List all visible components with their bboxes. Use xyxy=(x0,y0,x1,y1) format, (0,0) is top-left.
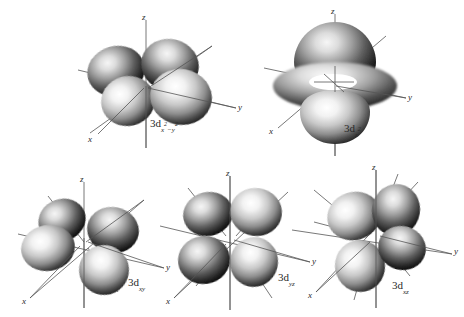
axis-label-x: x xyxy=(166,296,170,306)
orbital-label-sub-main: xz xyxy=(403,288,409,296)
orbital-label-sub-mid: −y xyxy=(167,126,175,134)
orbital-label-prefix: 3d xyxy=(278,271,289,283)
lobe-1 xyxy=(178,187,237,242)
lobe-4 xyxy=(225,232,284,292)
axis-label-x: x xyxy=(269,126,273,136)
orbital-label-sup-1: 2 xyxy=(164,121,167,127)
orbital-label-sub-main: xy xyxy=(139,285,145,293)
orbital-3d-xz-graphic xyxy=(292,168,464,317)
axis-label-y: y xyxy=(454,246,458,256)
orbital-label-prefix: 3d xyxy=(150,117,161,129)
orbital-label-prefix: 3d xyxy=(392,279,403,291)
axis-label-z: z xyxy=(226,168,230,178)
axis-label-x: x xyxy=(22,296,26,306)
orbital-label-sup-2: 2 xyxy=(175,121,178,127)
axis-label-x: x xyxy=(88,134,92,144)
axis-label-y: y xyxy=(238,102,242,112)
orbital-label-sup-1: 2 xyxy=(358,126,361,132)
lobe-2 xyxy=(227,185,285,240)
orbital-label-sub-main: z xyxy=(355,131,358,139)
orbital-label-3d-z2: 3dz2 xyxy=(344,122,361,134)
axis-label-z: z xyxy=(372,162,376,172)
orbital-label-prefix: 3d xyxy=(344,122,355,134)
axis-label-y: y xyxy=(408,92,412,102)
axis-label-z: z xyxy=(331,6,335,16)
orbital-label-prefix: 3d xyxy=(128,276,139,288)
lobe-3 xyxy=(175,233,233,288)
orbital-label-3d-x2-y2: 3dx2−y2 xyxy=(150,117,178,129)
orbital-3d-x2-y2: z y x xyxy=(60,8,260,158)
orbital-3d-xz: z y x xyxy=(292,168,464,317)
axis-label-z: z xyxy=(142,12,146,22)
orbital-label-3d-xz: 3dxz xyxy=(392,279,409,291)
axis-label-x: x xyxy=(308,290,312,300)
axis-lines xyxy=(160,176,310,310)
orbital-label-3d-xy: 3dxy xyxy=(128,276,145,288)
axis-label-z: z xyxy=(80,174,84,184)
orbital-figure: z y x 3dx2−y2 xyxy=(0,0,464,317)
orbital-label-sub-main: x xyxy=(161,126,164,134)
